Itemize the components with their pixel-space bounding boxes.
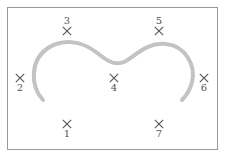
x-mark-icon [200,74,208,82]
marker-label: 1 [64,128,70,139]
marker-3: 3 [63,15,71,35]
x-mark-icon [110,74,118,82]
marker-label: 2 [17,82,23,93]
marker-6: 6 [200,74,208,93]
diagram-canvas: 1234567 [0,0,225,156]
diagram-svg: 1234567 [0,0,225,156]
x-mark-icon [155,27,163,35]
marker-label: 6 [201,82,207,93]
x-mark-icon [63,120,71,128]
marker-1: 1 [63,120,71,139]
marker-label: 5 [156,15,162,26]
markers-group: 1234567 [16,15,208,139]
marker-label: 4 [111,82,117,93]
x-mark-icon [155,120,163,128]
marker-7: 7 [155,120,163,139]
marker-label: 7 [156,128,162,139]
x-mark-icon [63,27,71,35]
marker-2: 2 [16,74,24,93]
x-mark-icon [16,74,24,82]
marker-4: 4 [110,74,118,93]
marker-5: 5 [155,15,163,35]
marker-label: 3 [64,15,70,26]
